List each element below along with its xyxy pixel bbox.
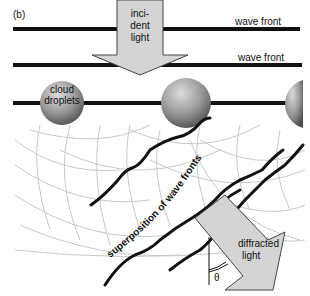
diffracted-label: diffracted: [238, 238, 279, 249]
wave-front-label-1: wave front: [234, 16, 281, 27]
droplets-label: droplets: [44, 95, 80, 106]
wave-front-label-2: wave front: [237, 52, 284, 63]
diffraction-diagram: inci- dent light cloud droplets superpos…: [0, 0, 310, 296]
incident-label-1: inci-: [131, 8, 149, 19]
theta-symbol: θ: [214, 272, 220, 283]
panel-label: (b): [13, 9, 25, 20]
diffracted-light-label: light: [242, 250, 261, 261]
incident-label-3: light: [131, 32, 150, 43]
cloud-label: cloud: [50, 84, 74, 95]
incident-label-2: dent: [130, 20, 150, 31]
droplet-3: [285, 80, 303, 128]
